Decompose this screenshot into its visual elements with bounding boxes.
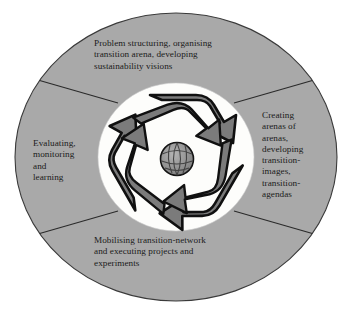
segment-label-creating-arenas: Creating arenas of arenas, developing tr… xyxy=(262,110,336,200)
segment-label-mobilising-network: Mobilising transition-network and execut… xyxy=(94,235,272,269)
globe-icon xyxy=(161,143,194,176)
transition-management-diagram: Problem structuring, organising transiti… xyxy=(0,0,356,315)
segment-label-evaluating-monitoring: Evaluating, monitoring and learning xyxy=(33,138,107,183)
segment-label-problem-structuring: Problem structuring, organising transiti… xyxy=(94,38,269,72)
